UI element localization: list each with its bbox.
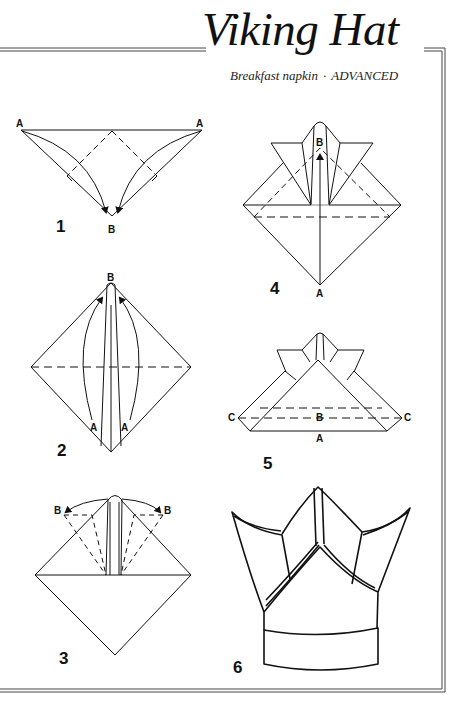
step-6-viking-hat [232,487,410,670]
point-label-b: B [316,137,323,148]
point-label-a: A [90,422,97,433]
point-label-a: A [316,288,323,299]
point-label-b: B [54,505,61,516]
step-number: 1 [56,217,65,237]
step-number: 5 [263,454,272,474]
step-number: 6 [233,658,242,678]
point-label-b: B [107,272,114,283]
point-label-b: B [108,224,115,235]
point-label-c: C [228,412,235,423]
point-label-b: B [316,412,323,423]
step-3-diagram [35,496,191,656]
point-label-a: A [316,433,323,444]
point-label-b: B [164,505,171,516]
step-1-diagram [21,130,202,216]
step-2-diagram [31,283,191,452]
point-label-c: C [404,412,411,423]
step-number: 3 [59,649,68,669]
step-number: 2 [57,441,66,461]
step-number: 4 [270,279,279,299]
point-label-a: A [121,422,128,433]
folding-diagram: A A B B A A B B [0,0,459,702]
point-label-a: A [16,118,23,129]
point-label-a: A [196,118,203,129]
